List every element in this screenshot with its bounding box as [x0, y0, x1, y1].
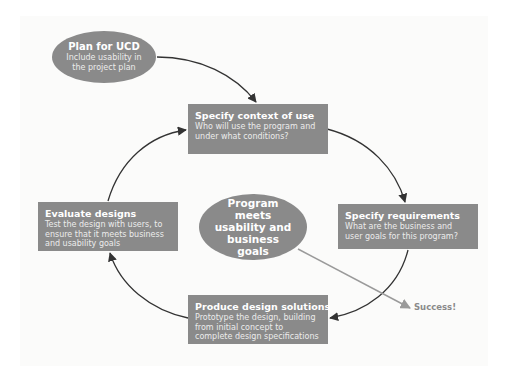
arrow-requirements-to-produce [330, 250, 408, 318]
arrow-plan-to-context [157, 57, 256, 102]
step-title: Specify requirements [345, 210, 471, 222]
step-produce-design-solutions: Produce design solutions Prototype the d… [188, 295, 328, 344]
center-title: Program meets usability and business goa… [210, 197, 296, 257]
step-desc: Who will use the program and under what … [195, 122, 321, 141]
step-evaluate-designs: Evaluate designs Test the design with us… [38, 202, 178, 251]
arrow-context-to-requirements [327, 129, 405, 202]
arrow-evaluate-to-context [108, 130, 186, 201]
plan-for-ucd-node: Plan for UCD Include usability in the pr… [52, 31, 156, 83]
arrow-produce-to-evaluate [110, 253, 188, 318]
center-goal-node: Program meets usability and business goa… [199, 194, 307, 260]
step-desc: What are the business and user goals for… [345, 222, 471, 241]
step-specify-requirements: Specify requirements What are the busine… [338, 204, 478, 249]
step-title: Specify context of use [195, 110, 321, 122]
step-specify-context: Specify context of use Who will use the … [188, 104, 328, 154]
step-desc: Prototype the design, building from init… [195, 313, 321, 342]
plan-title: Plan for UCD [68, 41, 140, 53]
step-title: Produce design solutions [195, 301, 321, 313]
step-desc: Test the design with users, to ensure th… [45, 220, 171, 249]
plan-desc: Include usability in the project plan [64, 53, 144, 72]
success-label: Success! [414, 302, 456, 312]
step-title: Evaluate designs [45, 208, 171, 220]
